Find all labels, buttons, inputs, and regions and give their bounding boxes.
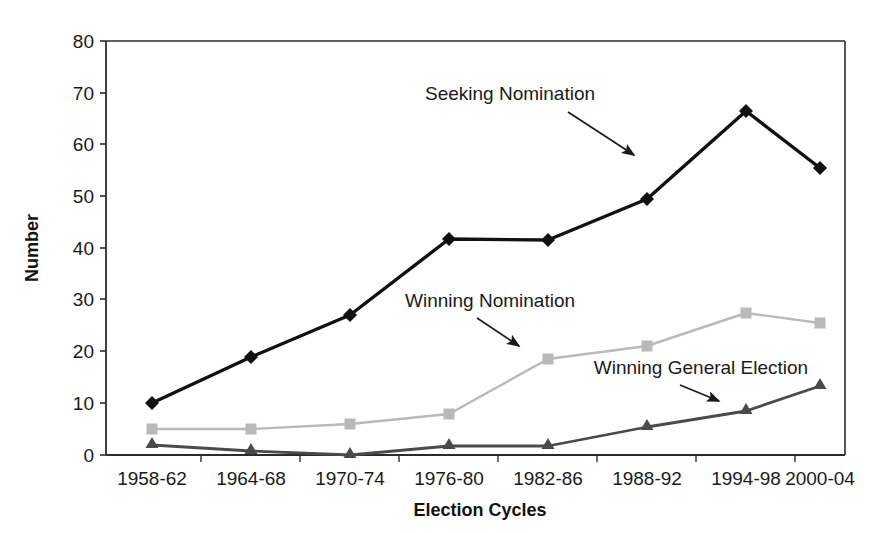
x-tick-label: 1994-98 xyxy=(711,468,781,489)
annotation-label: Winning General Election xyxy=(594,357,808,378)
x-axis-title: Election Cycles xyxy=(413,500,546,520)
y-tick-label: 0 xyxy=(83,445,94,466)
x-tick-label: 1976-80 xyxy=(414,468,484,489)
x-tick-label: 2000-04 xyxy=(785,468,855,489)
y-tick-label: 40 xyxy=(73,238,94,259)
y-tick-label: 70 xyxy=(73,83,94,104)
annotation-arrow xyxy=(680,385,719,401)
data-point xyxy=(244,350,258,364)
data-point xyxy=(245,443,258,454)
x-tick-label: 1970-74 xyxy=(315,468,385,489)
data-point xyxy=(815,318,826,329)
data-point xyxy=(444,409,455,420)
x-tick-label: 1982-86 xyxy=(513,468,583,489)
data-point xyxy=(543,354,554,365)
y-tick-label: 60 xyxy=(73,134,94,155)
x-tick-labels: 1958-62 1964-68 1970-74 1976-80 1982-86 … xyxy=(117,468,855,489)
data-point xyxy=(443,438,456,449)
annotation-label: Seeking Nomination xyxy=(425,83,595,104)
annotation-winning-nomination: Winning Nomination xyxy=(405,290,575,346)
y-tick-label: 80 xyxy=(73,31,94,52)
x-tick-label: 1958-62 xyxy=(117,468,187,489)
x-axis-ticks xyxy=(201,455,795,462)
y-tick-label: 10 xyxy=(73,393,94,414)
x-tick-label: 1964-68 xyxy=(216,468,286,489)
annotation-label: Winning Nomination xyxy=(405,290,575,311)
series-winning-general-election xyxy=(146,378,827,458)
data-point xyxy=(344,447,357,458)
y-tick-labels: 80 70 60 50 40 30 20 10 0 xyxy=(73,31,94,466)
data-point xyxy=(146,437,159,448)
chart-figure: 80 70 60 50 40 30 20 10 0 1958-62 1964-6… xyxy=(0,0,879,533)
y-axis-title: Number xyxy=(22,214,42,282)
annotation-arrow xyxy=(568,112,634,155)
line-chart: 80 70 60 50 40 30 20 10 0 1958-62 1964-6… xyxy=(0,0,879,533)
y-tick-label: 20 xyxy=(73,341,94,362)
annotation-seeking-nomination: Seeking Nomination xyxy=(425,83,634,155)
data-point xyxy=(345,419,356,430)
data-point xyxy=(642,341,653,352)
data-point xyxy=(814,378,827,389)
y-tick-label: 30 xyxy=(73,289,94,310)
annotation-arrow xyxy=(477,318,519,346)
data-point xyxy=(641,419,654,430)
data-point xyxy=(741,308,752,319)
data-point xyxy=(541,233,555,247)
annotation-winning-general-election: Winning General Election xyxy=(594,357,808,401)
data-point xyxy=(147,424,158,435)
data-point xyxy=(246,424,257,435)
data-point xyxy=(145,396,159,410)
y-tick-label: 50 xyxy=(73,186,94,207)
x-tick-label: 1988-92 xyxy=(612,468,682,489)
data-point xyxy=(542,438,555,449)
